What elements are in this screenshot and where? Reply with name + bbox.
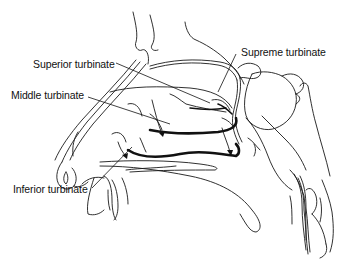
label-supreme-turbinate: Supreme turbinate (241, 47, 326, 58)
label-inferior-turbinate: Inferior turbinate (13, 184, 88, 195)
nasal-cavity-diagram: Superior turbinate Middle turbinate Infe… (0, 0, 340, 271)
middle-leader-line (88, 97, 170, 124)
label-superior-turbinate: Superior turbinate (33, 59, 115, 70)
inferior-leader-line (92, 147, 132, 188)
label-middle-turbinate: Middle turbinate (11, 90, 84, 101)
anatomy-drawing (0, 0, 340, 271)
